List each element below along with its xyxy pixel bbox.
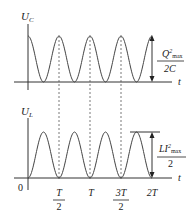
tick-3t-half-den: 2 — [119, 201, 124, 212]
arrow-down-icon — [150, 76, 155, 82]
top-x-label: t — [178, 76, 181, 87]
bottom-amplitude-label: LI2max 2 — [157, 143, 186, 169]
bottom-y-label: UL — [21, 105, 33, 119]
ul-curve — [28, 132, 152, 178]
svg-text:2C: 2C — [164, 63, 176, 74]
origin-label: 0 — [18, 182, 23, 193]
period-guides — [59, 36, 121, 178]
svg-text:Q2max: Q2max — [162, 48, 183, 59]
svg-text:LI2max: LI2max — [158, 143, 181, 154]
x-tick-labels: T 2 T 3T 2 2T — [53, 187, 159, 212]
tick-t: T — [88, 187, 95, 198]
bottom-x-label: t — [178, 172, 181, 183]
top-amplitude-label: Q2max 2C — [157, 48, 184, 74]
lc-energy-diagram: UC t Q2max 2C UL t 0 LI2max 2 — [0, 0, 193, 219]
tick-t-half-den: 2 — [57, 201, 62, 212]
arrow-up-icon — [150, 132, 155, 138]
top-y-label: UC — [21, 10, 34, 24]
tick-2t: 2T — [147, 187, 159, 198]
uc-curve — [28, 36, 152, 82]
tick-3t-half-num: 3T — [115, 187, 128, 198]
bottom-plot: UL t 0 LI2max 2 — [14, 105, 186, 193]
svg-text:2: 2 — [168, 158, 173, 169]
top-plot: UC t Q2max 2C — [14, 10, 184, 90]
tick-t-half-num: T — [56, 187, 63, 198]
